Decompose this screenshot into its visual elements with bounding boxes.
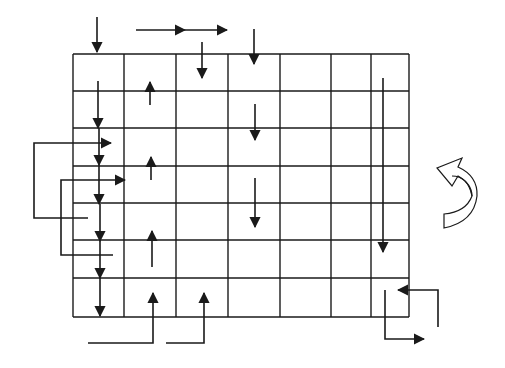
- counter-clockwise-rotation-icon: [437, 158, 477, 228]
- arrow-enter-right-bottom: [398, 290, 438, 327]
- arrow-exit-right-bottom: [385, 290, 424, 339]
- arrow-bottom-in-col3: [166, 293, 204, 343]
- flow-arrows: [34, 17, 438, 343]
- arrow-bottom-in-col2: [88, 293, 153, 343]
- grid-flow-diagram: [0, 0, 505, 368]
- grid: [73, 54, 409, 317]
